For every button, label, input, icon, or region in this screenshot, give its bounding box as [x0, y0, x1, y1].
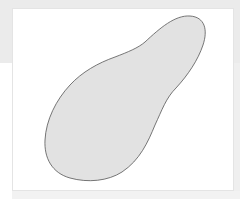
blob-shape [45, 16, 205, 181]
shape-canvas [0, 0, 240, 199]
